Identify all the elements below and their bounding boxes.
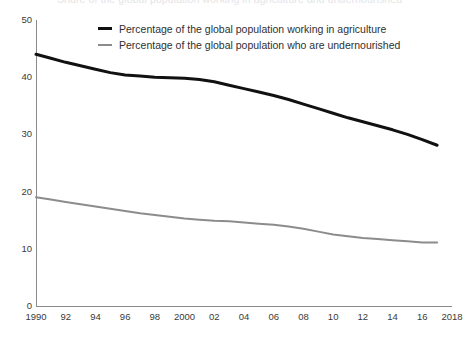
series-line-agriculture: [36, 54, 437, 145]
legend-label-agriculture: Percentage of the global population work…: [119, 23, 386, 35]
legend-item-agriculture: Percentage of the global population work…: [98, 22, 448, 35]
series-line-undernourished: [36, 197, 437, 242]
legend-item-undernourished: Percentage of the global population who …: [98, 38, 448, 51]
legend-swatch-agriculture-icon: [98, 27, 112, 30]
legend-swatch-undernourished-icon: [98, 44, 112, 46]
legend: Percentage of the global population work…: [98, 22, 448, 54]
legend-label-undernourished: Percentage of the global population who …: [119, 39, 400, 51]
